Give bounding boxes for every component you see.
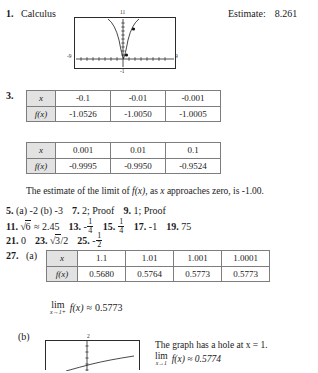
graph-frame xyxy=(45,340,140,370)
limit-relation: ≈ xyxy=(87,302,93,313)
note-fx: f(x) xyxy=(132,186,145,196)
note-value: -1.00. xyxy=(242,186,264,196)
fraction-25: 12 xyxy=(96,232,102,249)
answer-13-sign: - xyxy=(83,221,86,232)
cell-x-4: 1.0001 xyxy=(222,251,270,267)
limit-subscript: x→1+ xyxy=(50,309,66,315)
row-label-fx: f(x) xyxy=(27,106,56,122)
cell-fx-1: 0.5680 xyxy=(78,266,126,282)
answer-number-7: 7. xyxy=(72,205,80,216)
answer-line-5: 5.(a) -2 (b) -37.2; Proof9.1; Proof xyxy=(6,205,166,216)
row-label-x: x xyxy=(27,91,56,107)
cell-fx-3: -1.0005 xyxy=(166,106,221,122)
sqrt-icon: √6 xyxy=(20,221,31,232)
limit-subscript: x→1 xyxy=(155,361,168,367)
cell-x-1: -0.1 xyxy=(56,91,111,107)
note-line-2: limx→1f(x) ≈ 0.5774 xyxy=(155,352,221,366)
denominator: 4 xyxy=(118,226,124,235)
problem-27-part-a: (a) xyxy=(26,250,37,261)
answer-number-9: 9. xyxy=(123,205,131,216)
hole-graph-plot xyxy=(46,341,139,371)
problem-27-graph: 2 xyxy=(45,336,142,370)
problem-3-table-positive: x 0.001 0.01 0.1 f(x) -0.9995 -0.9950 -0… xyxy=(26,142,221,174)
fraction-15: 14 xyxy=(118,218,124,235)
cell-fx-3: -0.9524 xyxy=(166,158,221,174)
note-line-2-rest: f(x) ≈ 0.5774 xyxy=(172,354,221,364)
answer-11-approx: ≈ 2.45 xyxy=(34,221,60,232)
answer-text-17: -1 xyxy=(149,221,157,232)
answer-25-sign: - xyxy=(92,235,95,246)
answer-text-5: (a) -2 (b) -3 xyxy=(16,205,63,216)
problem-27-number: 27. xyxy=(6,250,19,261)
note-line-1: The graph has a hole at x = 1. xyxy=(155,340,268,350)
answer-number-19: 19. xyxy=(166,221,179,232)
row-label-fx: f(x) xyxy=(47,266,78,282)
answer-text-19: 75 xyxy=(181,221,191,232)
answer-number-5: 5. xyxy=(6,205,14,216)
answer-number-25: 25. xyxy=(77,235,90,246)
problem-3-note: The estimate of the limit of f(x), as x … xyxy=(26,186,264,196)
graph-xmin-label: -9 xyxy=(67,53,72,59)
answer-number-13: 13. xyxy=(68,221,81,232)
answer-number-21: 21. xyxy=(6,235,19,246)
limit-operator: limx→1 xyxy=(155,352,168,366)
problem-1-estimate: Estimate: 8.261 xyxy=(228,8,297,19)
answer-number-11: 11. xyxy=(6,221,18,232)
problem-1-block: 1. Calculus 11 -9 9 -1 xyxy=(6,4,312,82)
table-row: x -0.1 -0.01 -0.001 xyxy=(27,91,221,107)
problem-27-note: The graph has a hole at x = 1. limx→1f(x… xyxy=(155,340,268,350)
sqrt-icon: √3 xyxy=(50,235,61,246)
graph-ymax-label: 2 xyxy=(87,333,90,339)
cell-x-3: 0.1 xyxy=(166,143,221,159)
cell-fx-1: -1.0526 xyxy=(56,106,111,122)
answer-number-17: 17. xyxy=(134,221,147,232)
denominator: 2 xyxy=(96,240,102,249)
numerator: 1 xyxy=(96,232,102,240)
numerator: 1 xyxy=(87,218,93,226)
cell-fx-4: 0.5773 xyxy=(222,266,270,282)
answer-text-9: 1; Proof xyxy=(133,205,166,216)
cell-fx-2: 0.5764 xyxy=(126,266,174,282)
note-text-3: approaches zero, is xyxy=(165,186,242,196)
problem-27-table: x 1.1 1.01 1.001 1.0001 f(x) 0.5680 0.57… xyxy=(46,250,270,282)
cell-x-1: 1.1 xyxy=(78,251,126,267)
table-row: f(x) -0.9995 -0.9950 -0.9524 xyxy=(27,158,221,174)
graph-ymax-label: 11 xyxy=(120,9,125,15)
cell-fx-2: -0.9950 xyxy=(111,158,166,174)
cell-fx-1: -0.9995 xyxy=(56,158,111,174)
cell-fx-2: -1.0050 xyxy=(111,106,166,122)
problem-1-number: 1. xyxy=(6,8,14,19)
table-row: x 1.1 1.01 1.001 1.0001 xyxy=(47,251,270,267)
estimate-value: 8.261 xyxy=(275,8,298,19)
problem-1-label: Calculus xyxy=(21,8,56,19)
cell-x-2: 1.01 xyxy=(126,251,174,267)
cell-x-3: -0.001 xyxy=(166,91,221,107)
cell-x-2: -0.01 xyxy=(111,91,166,107)
note-text-1: The estimate of the limit of xyxy=(26,186,132,196)
table-row: x 0.001 0.01 0.1 xyxy=(27,143,221,159)
answer-number-15: 15. xyxy=(103,221,116,232)
problem-27-part-b: (b) xyxy=(18,331,30,342)
answer-11-radicand: 6 xyxy=(25,220,31,232)
estimate-label: Estimate: xyxy=(228,8,266,19)
answer-line-21: 21.023.√3/225.-12 xyxy=(6,232,103,249)
row-label-fx: f(x) xyxy=(27,158,56,174)
numerator: 1 xyxy=(118,218,124,226)
parabola-plot xyxy=(75,18,175,68)
cell-x-2: 0.01 xyxy=(111,143,166,159)
table-row: f(x) -1.0526 -1.0050 -1.0005 xyxy=(27,106,221,122)
problem-3-number: 3. xyxy=(6,90,14,101)
answer-text-21: 0 xyxy=(21,235,26,246)
limit-operator: limx→1+ xyxy=(50,300,66,315)
cell-x-1: 0.001 xyxy=(56,143,111,159)
row-label-x: x xyxy=(27,143,56,159)
answer-23-tail: /2 xyxy=(61,235,69,246)
problem-27-limit-expression: limx→1+f(x)≈0.5773 xyxy=(50,300,123,315)
cell-fx-3: 0.5773 xyxy=(174,266,222,282)
table-row: f(x) 0.5680 0.5764 0.5773 0.5773 xyxy=(47,266,270,282)
limit-function: f(x) xyxy=(70,302,84,313)
problem-1-graph: 11 -9 9 -1 xyxy=(74,11,178,74)
row-label-x: x xyxy=(47,251,78,267)
answer-text-7: 2; Proof xyxy=(82,205,115,216)
